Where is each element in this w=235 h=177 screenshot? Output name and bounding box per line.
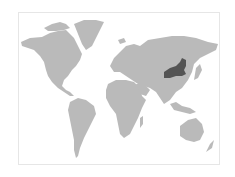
- japan: [194, 64, 202, 80]
- madagascar: [140, 116, 143, 128]
- new-zealand: [206, 140, 214, 152]
- arctic-islands: [44, 22, 70, 31]
- greenland: [74, 20, 104, 50]
- iceland: [118, 38, 126, 44]
- australia: [180, 118, 204, 142]
- south-america: [68, 98, 96, 158]
- southeast-asia-islands: [170, 102, 196, 114]
- north-america: [21, 30, 82, 96]
- world-map: [0, 0, 235, 177]
